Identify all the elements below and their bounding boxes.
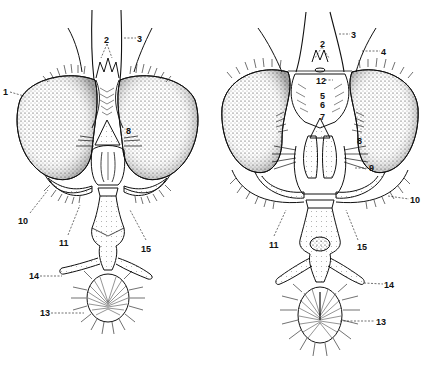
label-13-labellum: 13 — [376, 318, 386, 327]
figure-canvas: 1 2 3 8 10 11 15 14 13 2 3 4 12 5 6 7 8 … — [0, 0, 438, 365]
fly-head-illustration — [0, 0, 438, 365]
label-12: 12 — [316, 77, 326, 86]
label-2-ocelli: 2 — [104, 36, 109, 45]
label-11: 11 — [269, 241, 279, 250]
label-10: 10 — [410, 196, 420, 205]
left-head — [10, 10, 198, 334]
label-15: 15 — [357, 243, 367, 252]
label-3-arista: 3 — [137, 35, 142, 44]
label-11: 11 — [59, 239, 69, 248]
label-8: 8 — [126, 127, 131, 136]
label-7-lunule: 7 — [320, 113, 325, 122]
label-14-palp: 14 — [384, 281, 394, 290]
label-1-compound-eye: 1 — [3, 88, 8, 97]
label-3-arista: 3 — [351, 31, 356, 40]
label-15: 15 — [141, 245, 151, 254]
label-4: 4 — [381, 48, 386, 57]
right-head — [222, 12, 418, 356]
label-13-labellum: 13 — [40, 309, 50, 318]
label-8: 8 — [357, 137, 362, 146]
label-14-palp: 14 — [29, 272, 39, 281]
label-9-vibrissae: 9 — [369, 164, 374, 173]
label-10: 10 — [18, 217, 28, 226]
label-6: 6 — [320, 101, 325, 110]
label-2-ocelli: 2 — [320, 40, 325, 49]
